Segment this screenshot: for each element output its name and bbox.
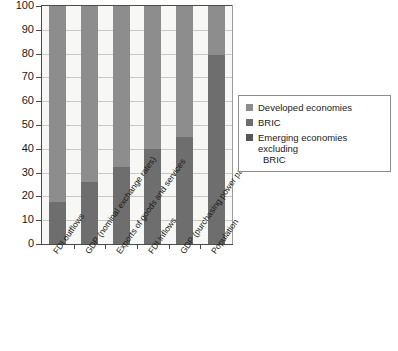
y-tick-label: 40 [0, 143, 34, 154]
legend-label: Developed economies [258, 102, 352, 113]
y-tick-mark [36, 54, 41, 55]
bar-segment [113, 6, 130, 167]
y-tick-mark [36, 149, 41, 150]
x-tick-mark [74, 244, 75, 249]
bar-group [81, 6, 98, 244]
y-tick-mark [36, 220, 41, 221]
x-tick-mark [105, 244, 106, 249]
y-tick-label: 100 [0, 0, 34, 11]
legend-item: Emerging economies excludingBRIC [246, 132, 384, 165]
gridline [42, 30, 232, 31]
y-tick-label: 0 [0, 238, 34, 249]
chart-legend: Developed economiesBRICEmerging economie… [238, 95, 391, 172]
bar-segment [144, 6, 161, 149]
bar-segment [176, 137, 193, 244]
gridline [42, 101, 232, 102]
legend-label: BRIC [258, 117, 281, 128]
y-tick-mark [36, 77, 41, 78]
y-tick-mark [36, 6, 41, 7]
bar-segment [81, 6, 98, 182]
bar-segment [49, 6, 66, 202]
x-tick-mark [137, 244, 138, 249]
legend-swatch-icon [246, 104, 253, 111]
bar-segment [176, 6, 193, 137]
y-tick-label: 80 [0, 48, 34, 59]
y-tick-mark [36, 125, 41, 126]
gridline [42, 125, 232, 126]
y-tick-label: 50 [0, 119, 34, 130]
plot-area [42, 6, 232, 244]
y-tick-mark [36, 196, 41, 197]
legend-label: Emerging economies excludingBRIC [258, 132, 384, 165]
plot-right-border [232, 5, 233, 245]
legend-item: BRIC [246, 117, 384, 128]
y-tick-label: 60 [0, 95, 34, 106]
legend-item-list: Developed economiesBRICEmerging economie… [246, 102, 384, 165]
bar-group [176, 6, 193, 244]
legend-label-continuation: BRIC [258, 154, 384, 165]
y-axis-line [41, 5, 42, 245]
y-tick-mark [36, 244, 41, 245]
x-tick-mark [200, 244, 201, 249]
x-tick-mark [169, 244, 170, 249]
gridline [42, 77, 232, 78]
y-tick-label: 70 [0, 71, 34, 82]
gridline [42, 54, 232, 55]
y-tick-mark [36, 173, 41, 174]
y-tick-label: 90 [0, 24, 34, 35]
plot-top-border [42, 5, 233, 6]
y-tick-label: 20 [0, 190, 34, 201]
y-tick-mark [36, 101, 41, 102]
gridline [42, 196, 232, 197]
gridline [42, 149, 232, 150]
bar-segment [208, 6, 225, 55]
bar-group [49, 6, 66, 244]
y-tick-label: 30 [0, 167, 34, 178]
stacked-bar-chart: 0102030405060708090100 FDI outflowsGDP (… [0, 0, 398, 351]
legend-swatch-icon [246, 134, 253, 141]
y-tick-mark [36, 30, 41, 31]
legend-item: Developed economies [246, 102, 384, 113]
legend-swatch-icon [246, 119, 253, 126]
y-tick-label: 10 [0, 214, 34, 225]
